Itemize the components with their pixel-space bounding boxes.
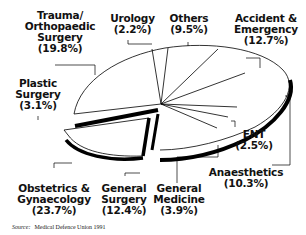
label-accident-emergency: Accident & Emergency (12.7%)	[228, 13, 304, 46]
label-anaesthetics: Anaesthetics (10.3%)	[208, 167, 284, 189]
source-note: Source:Medical Defence Union 1991	[12, 224, 106, 230]
label-percent: (2.5%)	[234, 140, 274, 151]
label-percent: (3.9%)	[150, 205, 208, 216]
label-obstetrics-gynaecology: Obstetrics & Gynaecology (23.7%)	[14, 183, 94, 216]
label-trauma: Trauma/ Orthopaedic Surgery (19.8%)	[10, 10, 110, 54]
label-percent: (12.7%)	[228, 35, 304, 46]
label-percent: (3.1%)	[10, 100, 66, 111]
label-percent: (19.8%)	[10, 43, 110, 54]
label-percent: (10.3%)	[208, 178, 284, 189]
label-plastic-surgery: Plastic Surgery (3.1%)	[10, 78, 66, 111]
label-others: Others (9.5%)	[164, 13, 214, 35]
label-percent: (2.2%)	[105, 24, 160, 35]
source-text: Medical Defence Union 1991	[34, 224, 105, 230]
label-ent: ENT (2.5%)	[234, 129, 274, 151]
label-general-medicine: General Medicine (3.9%)	[150, 183, 208, 216]
label-percent: (12.4%)	[98, 205, 150, 216]
label-percent: (23.7%)	[14, 205, 94, 216]
label-urology: Urology (2.2%)	[105, 13, 160, 35]
label-general-surgery: General Surgery (12.4%)	[98, 183, 150, 216]
label-percent: (9.5%)	[164, 24, 214, 35]
source-label: Source:	[12, 224, 30, 230]
